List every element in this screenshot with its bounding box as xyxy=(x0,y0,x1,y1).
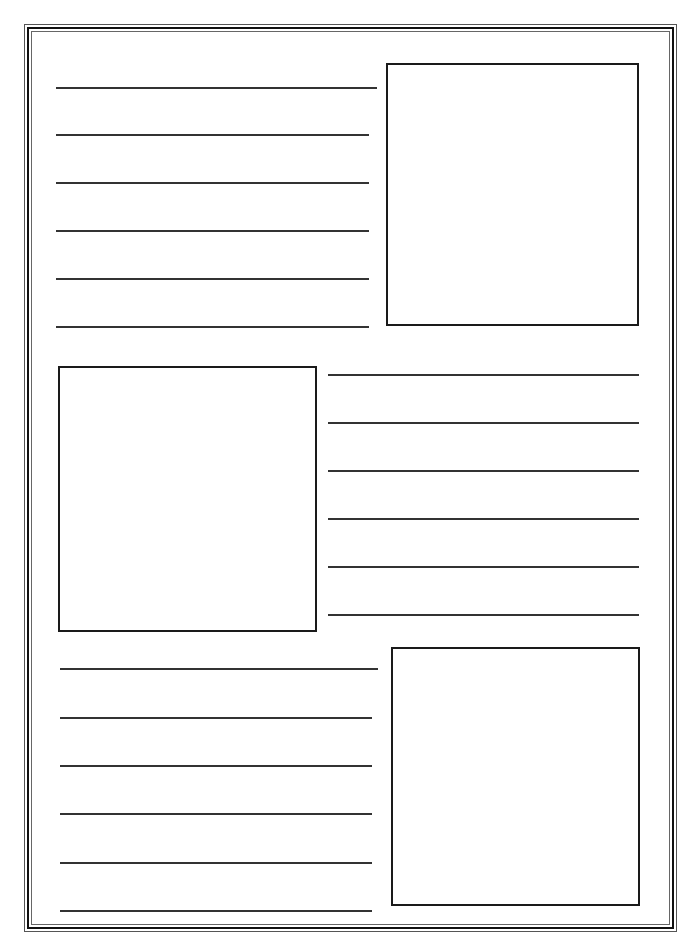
writing-line xyxy=(328,518,639,520)
picture-box-3 xyxy=(391,647,640,906)
writing-line xyxy=(328,422,639,424)
writing-line xyxy=(328,566,639,568)
picture-box-1 xyxy=(386,63,639,326)
writing-line xyxy=(56,134,369,136)
writing-line xyxy=(60,765,372,767)
picture-box-2 xyxy=(58,366,317,632)
writing-line xyxy=(56,87,377,89)
writing-line xyxy=(60,717,372,719)
writing-line xyxy=(60,910,372,912)
writing-line xyxy=(60,668,378,670)
writing-line xyxy=(56,182,369,184)
writing-line xyxy=(60,862,372,864)
writing-line xyxy=(328,374,639,376)
writing-line xyxy=(56,230,369,232)
writing-line xyxy=(56,326,369,328)
writing-line xyxy=(60,813,372,815)
writing-line xyxy=(328,614,639,616)
writing-line xyxy=(56,278,369,280)
writing-line xyxy=(328,470,639,472)
